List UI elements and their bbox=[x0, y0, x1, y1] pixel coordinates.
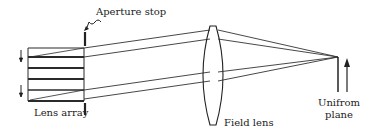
aperture-stop bbox=[84, 20, 101, 115]
image-up-arrow bbox=[344, 58, 350, 92]
uniform-plane-label-line2: plane bbox=[318, 109, 360, 120]
input-beam-arrows bbox=[20, 50, 23, 97]
rays-to-uniform-plane bbox=[218, 30, 338, 81]
lens-array bbox=[28, 48, 84, 101]
uniform-plane-label-line1: Unifrom bbox=[318, 97, 360, 108]
aperture-stop-label: Aperture stop bbox=[96, 6, 166, 17]
lens-array-label: Lens array bbox=[34, 107, 88, 118]
rays-to-field-lens bbox=[84, 30, 210, 99]
field-lens-label: Field lens bbox=[224, 117, 274, 128]
field-lens bbox=[203, 26, 223, 125]
